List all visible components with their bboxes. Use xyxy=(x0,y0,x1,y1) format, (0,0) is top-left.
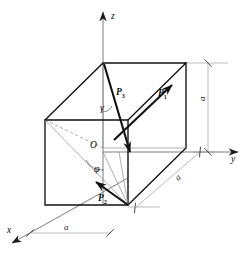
figure-root: z y x O γ φ P1 P3 P2 xyxy=(0,0,247,266)
construction-lines xyxy=(45,120,128,205)
angle-label-phi: φ xyxy=(94,163,100,174)
axis-label-y: y xyxy=(230,154,236,164)
dim-label-height: a xyxy=(197,96,207,101)
axis-label-z: z xyxy=(110,11,115,21)
dim-depth-line xyxy=(135,152,200,208)
dim-height-group xyxy=(186,63,228,152)
axis-label-x: x xyxy=(6,225,12,235)
vector-label-P3: P3 xyxy=(116,87,125,99)
cube-vector-diagram: z y x O γ φ P1 P3 P2 xyxy=(0,0,247,266)
dim-label-depth: a xyxy=(173,172,183,183)
cube-visible-edges xyxy=(45,63,186,205)
vector-label-P2: P2 xyxy=(98,193,107,205)
vector-P3-arrow xyxy=(104,64,130,152)
gamma-arc xyxy=(103,106,112,112)
base-diagonal-to-front-left xyxy=(45,120,128,205)
origin-label: O xyxy=(90,140,97,150)
vector-P1-subscript: 1 xyxy=(164,93,167,100)
svg-text:P2: P2 xyxy=(98,193,107,205)
cube-group xyxy=(45,63,186,205)
vector-P2-subscript: 2 xyxy=(104,198,107,205)
angle-label-gamma: γ xyxy=(100,102,105,113)
dim-depth-group xyxy=(128,152,200,208)
vector-P3-subscript: 3 xyxy=(122,92,125,99)
dim-label-width: a xyxy=(64,222,69,232)
angle-arcs xyxy=(86,106,112,170)
axes-group xyxy=(12,12,238,243)
right-face-outline xyxy=(128,63,186,205)
svg-text:P3: P3 xyxy=(116,87,125,99)
